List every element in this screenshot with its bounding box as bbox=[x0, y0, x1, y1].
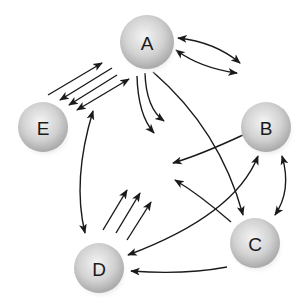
node-label: A bbox=[141, 33, 154, 54]
diagram-canvas: ABCDE bbox=[0, 0, 305, 305]
network-diagram: ABCDE bbox=[0, 0, 305, 305]
edge-e-d-arrow bbox=[80, 111, 93, 233]
node-e: E bbox=[17, 102, 73, 159]
node-label: E bbox=[37, 118, 50, 139]
edge-a-b-upper-arrow bbox=[178, 38, 240, 63]
node-label: C bbox=[248, 234, 262, 255]
node-label: B bbox=[260, 118, 273, 139]
node-label: D bbox=[92, 259, 106, 280]
edge-c-out-arrow bbox=[175, 180, 231, 222]
node-a: A bbox=[119, 15, 179, 76]
edge-d-out-2-arrow bbox=[116, 193, 140, 233]
node-c: C bbox=[229, 218, 285, 275]
nodes-layer: ABCDE bbox=[17, 15, 296, 300]
edge-c-d-arrow bbox=[131, 267, 227, 272]
node-b: B bbox=[240, 102, 296, 159]
edge-a-c-arrow bbox=[153, 72, 243, 215]
edge-b-c-arrow bbox=[275, 156, 286, 215]
edge-d-out-1-arrow bbox=[103, 190, 127, 230]
edge-b-out-arrow bbox=[173, 135, 243, 163]
node-d: D bbox=[73, 243, 129, 300]
